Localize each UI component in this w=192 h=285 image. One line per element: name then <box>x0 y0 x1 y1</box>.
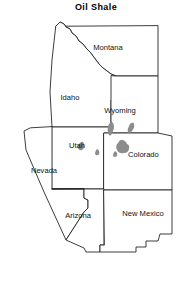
state-label-wyoming: Wyoming <box>104 106 136 115</box>
state-label-idaho: Idaho <box>60 93 79 102</box>
state-label-new-mexico: New Mexico <box>122 209 163 218</box>
state-shape-new-mexico[interactable] <box>100 190 172 252</box>
state-shape-colorado[interactable] <box>104 133 172 190</box>
state-label-montana: Montana <box>93 43 123 52</box>
state-label-utah: Utah <box>69 141 85 150</box>
state-label-colorado: Colorado <box>128 150 159 159</box>
state-label-arizona: Arizona <box>65 211 92 220</box>
map-svg: Montana Idaho Wyoming Utah Colorado Neva… <box>0 0 192 285</box>
state-shape-utah[interactable] <box>52 127 111 189</box>
state-label-nevada: Nevada <box>31 166 58 175</box>
state-shape-wyoming[interactable] <box>111 76 158 133</box>
oil-shale-map-figure: Oil Shale <box>0 0 192 285</box>
